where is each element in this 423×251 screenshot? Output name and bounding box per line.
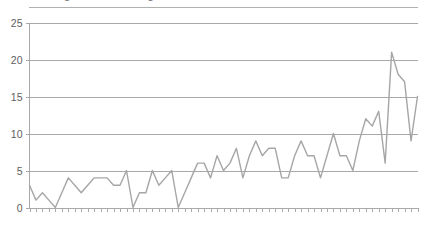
x-axis: 1950195319561959196219651968197119741977… <box>24 208 423 251</box>
y-axis: 0510152025 <box>11 17 30 214</box>
y-tick-label: 5 <box>17 165 23 177</box>
y-tick-label: 15 <box>11 91 23 103</box>
series-line <box>30 52 418 207</box>
y-tick-label: 0 <box>17 202 23 214</box>
chart-plot-area: 0510152025 19501953195619591962196519681… <box>0 0 423 251</box>
y-tick-label: 10 <box>11 128 23 140</box>
y-tick-label: 20 <box>11 54 23 66</box>
y-tick-label: 25 <box>11 17 23 29</box>
data-series <box>30 52 418 207</box>
line-chart-figure: ausgewertete Beiträge 0510152025 1950195… <box>0 0 423 251</box>
gridlines <box>30 24 418 209</box>
